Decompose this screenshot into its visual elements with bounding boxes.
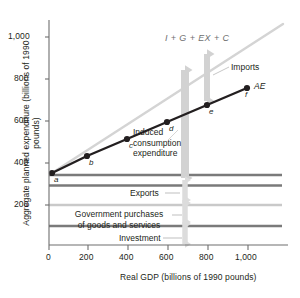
point-label-e: e — [209, 107, 213, 116]
y-tick-label-400: 400 — [14, 157, 28, 167]
induced-consumption-label: Induced consumption expenditure — [133, 127, 181, 159]
x-tick-label-800: 800 — [199, 252, 213, 262]
equation-label: I + G + EX + C — [165, 33, 229, 43]
induced-line-1: Induced — [133, 127, 181, 138]
ae-line-label: AE — [254, 81, 265, 91]
point-label-f: f — [245, 90, 247, 99]
x-tick-label-200: 200 — [79, 252, 93, 262]
government-line-2: of goods and services — [63, 220, 175, 231]
exports-label: Exports — [130, 188, 159, 199]
government-purchases-label: Government purchases of goods and servic… — [63, 209, 175, 230]
chart-figure: Aggregate planned expenditure (billions … — [0, 0, 300, 298]
investment-label: Investment — [119, 233, 161, 244]
y-tick-label-1000: 1,000 — [8, 31, 30, 41]
y-tick-label-200: 200 — [14, 199, 28, 209]
induced-line-3: expenditure — [133, 148, 181, 159]
x-tick-label-0: 0 — [46, 252, 51, 262]
x-tick-label-400: 400 — [119, 252, 133, 262]
y-tick-label-600: 600 — [14, 115, 28, 125]
government-line-1: Government purchases — [63, 209, 175, 220]
y-tick-label-800: 800 — [14, 73, 28, 83]
x-tick-label-600: 600 — [159, 252, 173, 262]
induced-line-2: consumption — [133, 138, 181, 149]
annotation-arrows — [185, 54, 207, 244]
point-label-b: b — [89, 158, 93, 167]
imports-label: Imports — [231, 62, 259, 73]
x-axis-title: Real GDP (billions of 1990 pounds) — [120, 272, 257, 282]
x-tick-label-1000: 1,000 — [235, 252, 257, 262]
point-label-a: a — [54, 175, 58, 184]
